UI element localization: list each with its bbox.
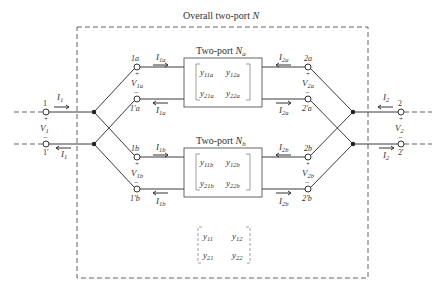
overall-title: Overall two-port N (183, 10, 260, 21)
port2-node-label: 2 (398, 99, 402, 108)
overall-matrix-bracket-left (198, 227, 202, 263)
arrow-left-icon (276, 63, 291, 67)
wire-j1p-to-1pa (94, 101, 134, 144)
plus-sign: + (135, 70, 139, 78)
V2a-label: V2a (302, 78, 314, 89)
node-2b-label: 2b (304, 144, 312, 153)
port1-plus: + (44, 115, 48, 123)
arrow-right-icon (153, 63, 168, 67)
plus-sign: + (306, 160, 310, 168)
overall-y21: y21 (202, 250, 214, 261)
arrow-left-icon (378, 105, 393, 109)
I2a-label-top: I2a (278, 52, 289, 63)
node-1pb-label: 1′b (130, 194, 140, 203)
node-2pb-label: 2′b (302, 194, 312, 203)
I2a-label-bottom: I2a (278, 105, 289, 116)
arrow-right-icon (153, 153, 168, 157)
port2-minus: − (398, 133, 403, 142)
wire-j1p-to-1pb (94, 144, 134, 187)
V2-label: V2 (395, 123, 405, 134)
I1a-label-bottom: I1a (155, 105, 166, 116)
I1a-label-top: I1a (155, 52, 166, 63)
I1-label-top: I1 (56, 92, 63, 103)
node-1pa-label: 1′a (130, 104, 140, 113)
wire-j1-to-1a (94, 69, 134, 112)
Nb-title: Two-port Nb (196, 135, 246, 148)
Na-title: Two-port Na (196, 45, 246, 58)
node-2pa-label: 2′a (302, 104, 312, 113)
arrow-left-icon (276, 153, 291, 157)
I2b-label-bottom: I2b (278, 196, 289, 207)
V1a-label: V1a (131, 78, 143, 89)
overall-y11: y11 (202, 231, 213, 242)
arrow-right-icon (276, 191, 291, 195)
wire-j2p-to-2pa (311, 101, 353, 144)
plus-sign: + (306, 70, 310, 78)
overall-y12: y12 (231, 231, 243, 242)
I2b-label-top: I2b (278, 142, 289, 153)
minus-sign: − (134, 178, 139, 187)
V1-label: V1 (40, 123, 49, 134)
parallel-two-port-diagram: Overall two-port N Two-port Na (0, 0, 443, 293)
port1-minus: − (43, 133, 48, 142)
port2-prime-node-label: 2′ (398, 148, 404, 157)
I1b-label-top: I1b (155, 142, 166, 153)
wire-j2-to-2b (311, 112, 353, 155)
node-1a-label: 1a (131, 54, 139, 63)
I1b-label-bottom: I1b (155, 196, 166, 207)
arrow-right-icon (379, 146, 394, 150)
minus-sign: − (305, 88, 310, 97)
junction-dot (92, 142, 96, 146)
port2-plus: + (399, 115, 403, 123)
plus-sign: + (135, 160, 139, 168)
overall-y22: y22 (231, 250, 243, 261)
wire-j2-to-2a (311, 69, 353, 112)
I2-label-top: I2 (382, 92, 390, 103)
junction-dot (92, 110, 96, 114)
wire-j1-to-1b (94, 112, 134, 155)
minus-sign: − (134, 88, 139, 97)
wire-j2p-to-2pb (311, 144, 353, 187)
overall-matrix-bracket-right (246, 227, 250, 263)
junction-dot (351, 110, 355, 114)
node-1b-label: 1b (131, 144, 139, 153)
arrow-left-icon (153, 191, 168, 195)
junction-dot (351, 142, 355, 146)
arrow-right-icon (54, 105, 69, 109)
V1b-label: V1b (131, 168, 144, 179)
I1-label-bottom: I1 (60, 149, 67, 160)
arrow-left-icon (153, 101, 168, 105)
I2-label-bottom: I2 (382, 150, 390, 161)
port1-node-label: 1 (43, 99, 47, 108)
port1-prime-node-label: 1′ (43, 148, 49, 157)
V2b-label: V2b (302, 168, 315, 179)
minus-sign: − (305, 178, 310, 187)
node-2a-label: 2a (304, 54, 312, 63)
